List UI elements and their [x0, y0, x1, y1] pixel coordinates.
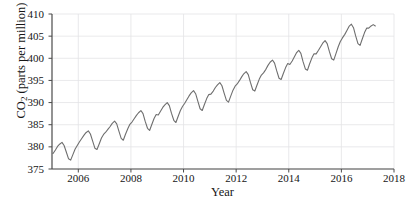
plot-area [0, 0, 410, 206]
co2-line-chart-figure: CO2 (parts per million) Year 37538038539… [0, 0, 410, 206]
data-series-line [53, 24, 375, 160]
